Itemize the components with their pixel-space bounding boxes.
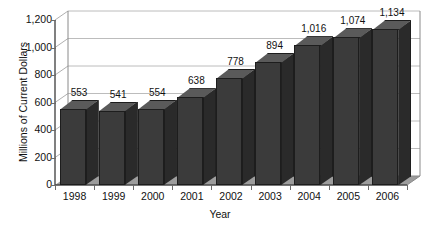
bar-front-face [294,45,320,185]
y-tick-label: 200 [8,151,52,163]
x-tick-mark [290,185,291,190]
y-tick-label: 600 [8,96,52,108]
x-tick-mark [368,185,369,190]
y-tick-label: 1,000 [8,41,52,53]
y-tick-label: 0 [8,178,52,190]
bar-side-face [164,100,177,185]
bar-front-face [372,29,398,185]
bar-side-face [86,100,99,185]
bar-side-face [398,20,411,185]
bar-front-face [333,37,359,185]
bar-side-face [203,88,216,185]
x-tick-label: 2006 [364,190,410,202]
x-axis-title: Year [0,208,440,220]
x-tick-mark [329,185,330,190]
x-tick-mark [172,185,173,190]
y-tick-label: 1,200 [8,13,52,25]
bar-front-face [138,109,164,185]
y-tick-mark [51,20,56,21]
bar-front-face [255,62,281,185]
y-tick-mark [51,130,56,131]
bar-chart: Millions of Current Dollars Year 0200400… [0,0,440,235]
x-tick-mark [133,185,134,190]
y-tick-label: 800 [8,68,52,80]
bar-front-face [60,109,86,185]
bar-side-face [320,36,333,185]
bar-value-label: 554 [130,87,184,98]
x-tick-mark [211,185,212,190]
bar-side-face [125,102,138,185]
y-tick-mark [51,103,56,104]
y-tick-mark [51,48,56,49]
y-tick-label: 400 [8,123,52,135]
bar-side-face [359,28,372,185]
bar-front-face [99,111,125,185]
bar-front-face [177,97,203,185]
bar-front-face [216,78,242,185]
x-tick-mark [55,185,56,190]
y-tick-mark [51,75,56,76]
x-tick-mark [407,185,408,190]
x-tick-mark [251,185,252,190]
bar-side-face [281,53,294,185]
bar-side-face [242,69,255,185]
x-tick-mark [94,185,95,190]
y-tick-mark [51,158,56,159]
bar-value-label: 1,134 [365,7,419,18]
